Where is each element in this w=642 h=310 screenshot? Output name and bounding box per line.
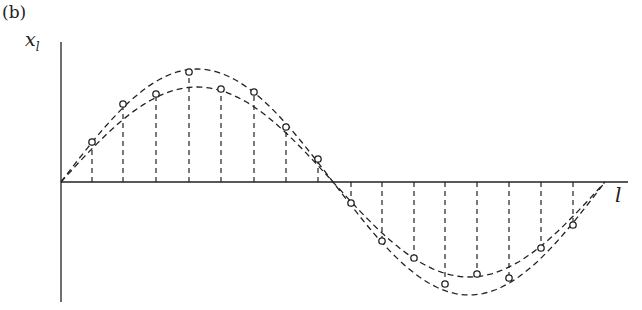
sample-point: [120, 101, 126, 107]
sample-point: [283, 124, 289, 130]
sample-point: [153, 91, 159, 97]
sample-point: [348, 200, 354, 206]
sample-point: [89, 139, 95, 145]
sample-point: [251, 89, 257, 95]
sample-point: [538, 245, 544, 251]
sample-point: [379, 238, 385, 244]
sample-point: [474, 271, 480, 277]
sample-points: [89, 69, 576, 287]
sample-point: [315, 156, 321, 162]
diagram-canvas: [0, 0, 642, 310]
sample-point: [570, 222, 576, 228]
sample-stems: [92, 72, 573, 284]
sample-point: [442, 281, 448, 287]
sample-point: [506, 275, 512, 281]
sample-point: [411, 255, 417, 261]
sample-point: [218, 86, 224, 92]
sample-point: [186, 69, 192, 75]
